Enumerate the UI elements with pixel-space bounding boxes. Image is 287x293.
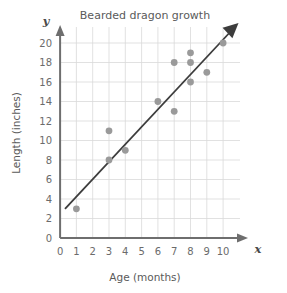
x-axis — [60, 234, 248, 243]
y-tick-label: 12 — [39, 116, 52, 127]
data-point — [203, 69, 210, 76]
y-tick-label: 4 — [46, 194, 52, 205]
y-tick-label: 0 — [46, 233, 52, 244]
x-tick-label: 0 — [57, 246, 63, 257]
y-axis-variable-symbol: y — [42, 14, 51, 28]
trend-line-group — [65, 23, 239, 209]
x-tick-label: 10 — [217, 246, 230, 257]
y-tick-label: 20 — [39, 38, 52, 49]
scatter-plot-figure: Bearded dragon growth — [0, 0, 287, 293]
trend-line-arrowhead — [223, 23, 239, 38]
x-tick-label: 8 — [187, 246, 193, 257]
x-axis-variable-symbol: x — [254, 242, 262, 256]
data-point — [220, 40, 227, 47]
y-tick-label: 16 — [39, 77, 52, 88]
x-tick-label: 9 — [204, 246, 210, 257]
x-axis-title: Age (months) — [109, 271, 180, 283]
y-tick-label: 2 — [46, 213, 52, 224]
y-tick-label: 8 — [46, 155, 52, 166]
y-axis — [56, 25, 65, 238]
data-point — [155, 98, 162, 105]
x-tick-label: 5 — [138, 246, 144, 257]
data-point — [106, 127, 113, 134]
x-tick-labels: 0 1 2 3 4 5 6 7 8 9 10 — [57, 246, 230, 257]
x-tick-label: 7 — [171, 246, 177, 257]
data-point — [73, 205, 80, 212]
data-point — [171, 108, 178, 115]
x-tick-label: 1 — [73, 246, 79, 257]
data-point — [187, 49, 194, 56]
y-axis-title: Length (inches) — [10, 92, 22, 174]
x-tick-label: 2 — [90, 246, 96, 257]
x-tick-label: 6 — [155, 246, 161, 257]
data-point — [122, 147, 129, 154]
chart-title: Bearded dragon growth — [80, 9, 210, 22]
data-point — [187, 79, 194, 86]
data-point — [187, 59, 194, 66]
y-tick-label: 18 — [39, 57, 52, 68]
data-point — [171, 59, 178, 66]
y-tick-labels: 0 2 4 6 8 10 12 14 16 18 20 — [39, 38, 52, 244]
gridlines — [60, 27, 240, 238]
x-tick-label: 3 — [106, 246, 112, 257]
x-tick-label: 4 — [122, 246, 128, 257]
data-point — [106, 157, 113, 164]
chart-canvas: Bearded dragon growth — [0, 0, 287, 293]
data-points — [73, 40, 227, 213]
x-axis-arrowhead — [237, 234, 248, 243]
y-axis-arrowhead — [56, 25, 65, 36]
y-tick-label: 14 — [39, 96, 52, 107]
y-tick-label: 6 — [46, 174, 52, 185]
y-tick-label: 10 — [39, 135, 52, 146]
